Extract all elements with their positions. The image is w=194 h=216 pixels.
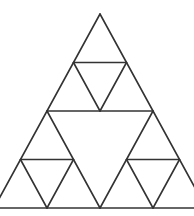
right-sub-inverted-right <box>153 160 180 209</box>
left-sub-inverted-right <box>47 160 74 209</box>
top-sub-inverted-left <box>74 63 101 112</box>
top-sub-inverted-right <box>100 63 127 112</box>
sierpinski-triangle-diagram <box>0 0 194 216</box>
left-sub-inverted-left <box>21 160 48 209</box>
right-sub-inverted-left <box>127 160 154 209</box>
triangle-edges <box>0 14 194 208</box>
